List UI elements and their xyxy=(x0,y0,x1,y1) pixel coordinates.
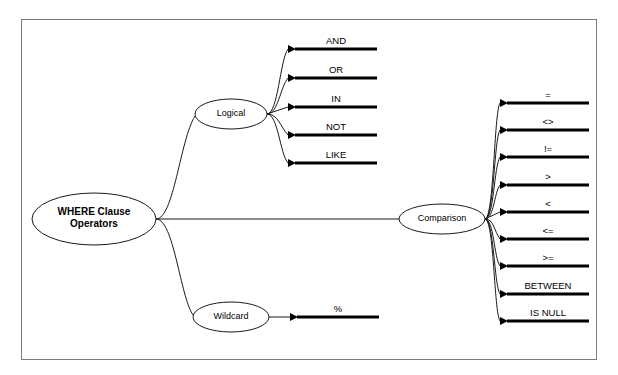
logical-leaf-lines xyxy=(295,49,377,163)
edge-logical-or xyxy=(267,78,288,114)
arrowhead-like xyxy=(288,159,296,167)
root-connectors xyxy=(156,116,399,315)
comparison-leaf-lines xyxy=(507,103,589,321)
diagram-frame: WHERE Clause Operators Logical Compariso… xyxy=(21,19,597,360)
edge-logical-in xyxy=(267,107,288,114)
arrowhead-eq xyxy=(500,99,508,107)
arrowheads xyxy=(288,45,508,325)
node-root-ellipse[interactable] xyxy=(32,193,156,245)
arrowhead-between xyxy=(500,290,508,298)
edge-logical-and xyxy=(267,49,288,114)
node-comparison-ellipse[interactable] xyxy=(399,204,485,234)
arrowhead-lt xyxy=(500,208,508,216)
arrowhead-or xyxy=(288,74,296,82)
screenshot-canvas: WHERE Clause Operators Logical Compariso… xyxy=(0,0,618,375)
comparison-connectors xyxy=(485,103,500,321)
arrowhead-percent xyxy=(290,313,298,321)
arrowhead-not xyxy=(288,131,296,139)
logical-connectors xyxy=(267,49,288,163)
edge-root-wildcard xyxy=(156,219,193,315)
arrowhead-ge xyxy=(500,262,508,270)
mindmap-svg xyxy=(22,20,596,359)
node-wildcard-ellipse[interactable] xyxy=(193,302,269,332)
edge-logical-like xyxy=(267,114,288,163)
arrowhead-isnull xyxy=(500,317,508,325)
arrowhead-gt xyxy=(500,181,508,189)
arrowhead-and xyxy=(288,45,296,53)
edge-root-logical xyxy=(156,116,195,219)
arrowhead-le xyxy=(500,235,508,243)
arrowhead-ne-bang xyxy=(500,153,508,161)
node-logical-ellipse[interactable] xyxy=(195,99,267,129)
arrowhead-ne-angle xyxy=(500,126,508,134)
arrowhead-in xyxy=(288,103,296,111)
